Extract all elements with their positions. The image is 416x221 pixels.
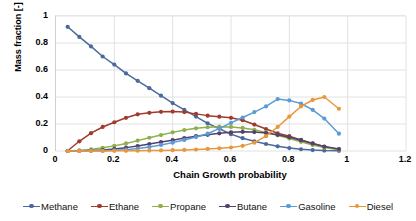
- data-point-marker: [287, 98, 291, 102]
- data-point-marker: [171, 130, 175, 134]
- data-point-marker: [159, 148, 163, 152]
- data-point-marker: [276, 133, 280, 137]
- data-point-marker: [147, 86, 151, 90]
- data-point-marker: [337, 107, 341, 111]
- data-point-marker: [287, 114, 291, 118]
- y-axis-title-container: Mass fraction [-]: [0, 10, 16, 152]
- data-point-marker: [299, 138, 303, 142]
- y-tick-label: 1: [24, 11, 48, 20]
- legend-label: Ethane: [109, 201, 139, 212]
- legend-item-butane[interactable]: Butane: [219, 201, 267, 212]
- legend-item-propane[interactable]: Propane: [152, 201, 206, 212]
- x-tick-label: 0.2: [93, 153, 133, 165]
- data-point-marker: [311, 141, 315, 145]
- legend-marker-icon: [349, 202, 366, 211]
- legend-item-methane[interactable]: Methane: [23, 201, 78, 212]
- data-point-marker: [252, 122, 256, 126]
- legend-marker-icon: [91, 202, 108, 211]
- series-lines: [66, 25, 341, 153]
- data-point-marker: [311, 148, 315, 152]
- data-point-marker: [194, 147, 198, 151]
- data-point-marker: [159, 94, 163, 98]
- data-point-marker: [241, 115, 245, 119]
- legend-marker-icon: [23, 202, 40, 211]
- x-tick-label: 0.8: [268, 153, 308, 165]
- data-point-marker: [264, 142, 268, 146]
- data-point-marker: [206, 132, 210, 136]
- data-point-marker: [194, 135, 198, 139]
- chart-legend: MethaneEthanePropaneButaneGasolineDiesel: [0, 197, 416, 215]
- data-point-marker: [159, 110, 163, 114]
- legend-item-gasoline[interactable]: Gasoline: [280, 201, 336, 212]
- data-point-marker: [241, 144, 245, 148]
- y-tick-label: 0.4: [24, 92, 48, 101]
- data-point-marker: [217, 131, 221, 135]
- data-point-marker: [194, 112, 198, 116]
- data-point-marker: [159, 133, 163, 137]
- legend-item-ethane[interactable]: Ethane: [91, 201, 139, 212]
- data-point-marker: [311, 98, 315, 102]
- y-tick-label: 0.6: [24, 65, 48, 74]
- x-axis-tick-labels: 00.20.40.60.811.2: [0, 153, 416, 167]
- data-point-marker: [171, 101, 175, 105]
- legend-label: Gasoline: [298, 201, 336, 212]
- data-point-marker: [112, 120, 116, 124]
- data-point-marker: [101, 125, 105, 129]
- data-point-marker: [276, 144, 280, 148]
- legend-marker-icon: [152, 202, 169, 211]
- x-tick-label: 0.4: [152, 153, 192, 165]
- data-point-marker: [136, 112, 140, 116]
- data-point-marker: [322, 95, 326, 99]
- data-point-marker: [217, 115, 221, 119]
- data-point-marker: [276, 125, 280, 129]
- data-point-marker: [229, 121, 233, 125]
- data-point-marker: [276, 97, 280, 101]
- data-point-marker: [147, 145, 151, 149]
- legend-label: Methane: [41, 201, 78, 212]
- data-point-marker: [89, 131, 93, 135]
- data-point-marker: [124, 141, 128, 145]
- data-point-marker: [77, 35, 81, 39]
- data-point-marker: [322, 117, 326, 121]
- data-point-marker: [147, 111, 151, 115]
- data-point-marker: [229, 125, 233, 129]
- data-point-marker: [206, 147, 210, 151]
- x-tick-label: 1: [327, 153, 367, 165]
- data-point-marker: [182, 128, 186, 132]
- legend-marker-icon: [280, 202, 297, 211]
- legend-marker-icon: [219, 202, 236, 211]
- data-point-marker: [182, 148, 186, 152]
- data-point-marker: [252, 130, 256, 134]
- data-point-marker: [337, 132, 341, 136]
- x-tick-label: 0: [35, 153, 75, 165]
- data-point-marker: [229, 145, 233, 149]
- data-point-marker: [241, 130, 245, 134]
- data-point-marker: [206, 125, 210, 129]
- data-point-marker: [337, 147, 341, 151]
- data-point-marker: [171, 141, 175, 145]
- data-point-marker: [171, 148, 175, 152]
- data-point-marker: [241, 126, 245, 130]
- plot-svg: [56, 16, 406, 151]
- legend-label: Diesel: [367, 201, 393, 212]
- data-point-marker: [136, 79, 140, 83]
- data-point-marker: [322, 144, 326, 148]
- data-point-marker: [299, 104, 303, 108]
- data-point-marker: [252, 110, 256, 114]
- y-tick-label: 0.8: [24, 38, 48, 47]
- data-point-marker: [89, 44, 93, 48]
- data-point-marker: [264, 134, 268, 138]
- data-point-marker: [229, 116, 233, 120]
- data-point-marker: [171, 109, 175, 113]
- data-point-marker: [124, 116, 128, 120]
- data-point-marker: [101, 54, 105, 58]
- data-point-marker: [66, 25, 70, 29]
- data-point-marker: [124, 71, 128, 75]
- data-point-marker: [182, 138, 186, 142]
- data-point-marker: [159, 143, 163, 147]
- data-point-marker: [206, 121, 210, 125]
- legend-item-diesel[interactable]: Diesel: [349, 201, 393, 212]
- chart-container: Mass fraction [-] 00.20.40.60.81 00.20.4…: [0, 0, 416, 221]
- series-methane: [66, 25, 341, 153]
- data-point-marker: [182, 110, 186, 114]
